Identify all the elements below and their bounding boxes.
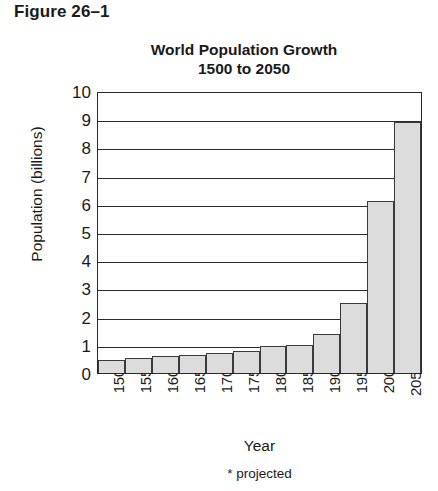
bar (260, 346, 287, 373)
x-axis-tick: 1800 (259, 377, 286, 439)
y-axis-tick-label: 2 (82, 309, 91, 326)
x-axis-tick-labels: 1500155016001650170017501800185019001950… (97, 377, 422, 439)
x-axis-tick: 1550 (124, 377, 151, 439)
figure-label: Figure 26–1 (14, 2, 110, 22)
y-axis-title: Population (billions) (28, 69, 46, 319)
chart-title-line-1: World Population Growth (64, 40, 424, 59)
y-axis-tick-label: 10 (72, 84, 91, 101)
y-axis-tick-label: 8 (82, 140, 91, 157)
bar (286, 345, 313, 373)
x-axis-tick: 1950 (341, 377, 368, 439)
bar-series (98, 93, 421, 373)
x-axis-tick: 1750 (232, 377, 259, 439)
bar (233, 351, 260, 373)
y-axis-tick-label: 5 (82, 225, 91, 242)
bar (98, 360, 125, 373)
bar (206, 353, 233, 373)
y-axis-tick-label: 6 (82, 196, 91, 213)
bar (125, 358, 152, 374)
x-axis-tick: 1700 (205, 377, 232, 439)
chart-title-line-2: 1500 to 2050 (64, 59, 424, 78)
y-axis-tick-label: 4 (82, 253, 91, 270)
x-axis-tick: 1500 (97, 377, 124, 439)
y-axis-tick-label: 0 (82, 366, 91, 383)
y-axis-tick-labels: 109876543210 (57, 92, 91, 374)
y-axis-tick-label: 9 (82, 112, 91, 129)
y-axis-tick-label: 3 (82, 281, 91, 298)
x-axis-tick: 1900 (314, 377, 341, 439)
x-axis-title: Year (97, 437, 422, 455)
bar (152, 356, 179, 373)
plot-area (97, 92, 422, 374)
y-axis-tick-label: 1 (82, 337, 91, 354)
chart-title: World Population Growth 1500 to 2050 (64, 40, 424, 78)
bar (367, 201, 394, 373)
bar (313, 334, 340, 373)
bar (394, 122, 421, 373)
y-axis-tick-label: 7 (82, 168, 91, 185)
bar (340, 303, 367, 374)
x-axis-tick: 2050* (395, 377, 422, 439)
x-axis-tick: 1850 (287, 377, 314, 439)
x-axis-tick: 1600 (151, 377, 178, 439)
x-axis-tick: 1650 (178, 377, 205, 439)
chart-footnote: * projected (97, 466, 422, 481)
x-axis-tick: 2000 (368, 377, 395, 439)
bar (179, 355, 206, 373)
